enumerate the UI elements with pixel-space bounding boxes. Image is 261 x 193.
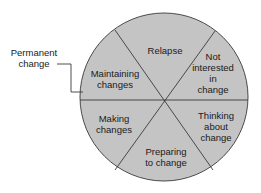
segment-label-line: Relapse	[148, 45, 183, 56]
segment-label-line: Making	[96, 113, 132, 124]
segment-relapse: Relapse	[148, 45, 183, 56]
segment-label-line: Preparing	[145, 146, 187, 157]
external-label-line: change	[8, 58, 60, 69]
segment-label-line: changes	[91, 79, 140, 90]
segment-thinking: Thinking about change	[198, 110, 234, 143]
segment-label-line: Thinking	[198, 110, 234, 121]
segment-label-line: Not	[192, 51, 234, 62]
segment-preparing: Preparing to change	[145, 146, 187, 168]
segment-label-line: change	[192, 84, 234, 95]
segment-label-line: about	[198, 121, 234, 132]
external-label-line: Permanent	[8, 47, 60, 58]
permanent-change-label: Permanent change	[8, 47, 60, 69]
permanent-change-leader-line	[57, 64, 83, 92]
segment-label-line: Maintaining	[91, 68, 140, 79]
segment-making: Making changes	[96, 113, 132, 135]
wheel-graphic	[0, 0, 261, 193]
segment-label-line: in	[192, 73, 234, 84]
segment-label-line: interested	[192, 62, 234, 73]
segment-maintaining: Maintaining changes	[91, 68, 140, 90]
segment-not-interested: Not interested in change	[192, 51, 234, 95]
segment-label-line: change	[198, 132, 234, 143]
segment-label-line: to change	[145, 157, 187, 168]
segment-label-line: changes	[96, 124, 132, 135]
